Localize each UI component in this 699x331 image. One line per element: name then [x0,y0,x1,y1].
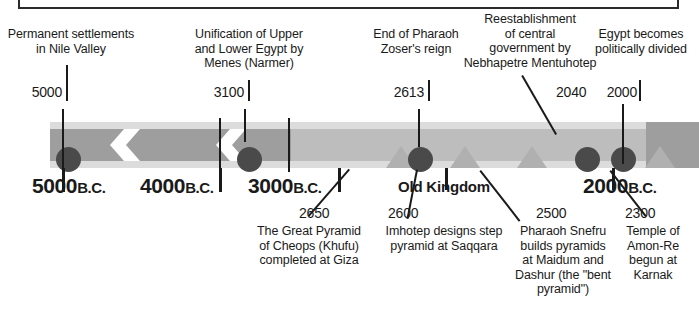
event-year-5000: 5000 [10,85,62,100]
axis-label-5000: 5000B.C. [32,174,106,198]
event-label-3100-line-2: Menes (Narmer) [183,56,315,71]
event-label-2000-line-0: Egypt becomes [583,27,699,42]
pyramid-marker-2500 [517,146,547,168]
timeline-band [50,122,699,168]
leader-line-2613-stem [418,109,420,147]
dot-marker-2613 [408,147,433,172]
event-label-5000: Permanent settlements in Nile Valley [6,27,136,56]
leader-line-3100-stem [244,109,246,142]
event-year-2000: 2000 [585,85,637,100]
event-year-2613: 2613 [372,85,424,100]
axis-rule-3000 [288,118,290,172]
axis-label-5000-era: B.C. [77,179,105,196]
leader-line-5000-label [66,65,68,101]
event-label-2650-line-1: of Cheops (Khufu) [246,239,372,254]
event-label-2500-line-4: pyramid") [508,282,618,297]
event-label-2500: Pharaoh Snefru builds pyramids at Maidum… [508,224,618,297]
event-label-2300: Temple of Amon-Re begun at Karnak [613,224,693,282]
axis-label-3000-year: 3000 [248,174,293,197]
axis-label-4000-year: 4000 [140,174,185,197]
axis-label-2000-year: 2000 [583,174,628,197]
timeline-figure: Permanent settlements in Nile Valley 500… [0,0,699,331]
event-label-2600-line-0: Imhotep designs step [379,224,509,239]
event-label-2040-line-0: Reestablishment [455,12,605,27]
event-year-2650: 2650 [299,206,351,221]
event-label-2500-line-0: Pharaoh Snefru [508,224,618,239]
event-label-2650: The Great Pyramid of Cheops (Khufu) comp… [246,224,372,268]
axis-label-3000: 3000B.C. [248,174,322,198]
leader-line-2000-label [639,80,641,101]
leader-line-3100-label [248,80,250,101]
event-year-2600: 2600 [388,206,440,221]
leader-line-2613-label [428,80,430,101]
dot-marker-2040 [575,147,600,172]
event-label-2300-line-2: begun at [613,253,693,268]
event-year-2500: 2500 [536,206,588,221]
event-label-2300-line-1: Amon-Re [613,239,693,254]
event-label-5000-line-0: Permanent settlements [6,27,136,42]
event-label-2650-line-2: completed at Giza [246,253,372,268]
axis-label-old-kingdom: Old Kingdom [398,178,490,195]
event-label-3100: Unification of Upper and Lower Egypt by … [183,27,315,71]
pyramid-marker-2600 [450,146,480,168]
event-label-2000-line-1: politically divided [583,42,699,57]
axis-label-2000: 2000B.C. [583,174,657,198]
event-year-2300: 2300 [625,206,677,221]
event-label-2000: Egypt becomes politically divided [583,27,699,56]
event-label-2500-line-3: Dashur (the "bent [508,268,618,283]
zigzag-break-1 [110,122,140,168]
event-year-3100: 3100 [192,85,244,100]
axis-label-5000-year: 5000 [32,174,77,197]
page-frame-box [18,0,679,9]
axis-rule-4000 [219,118,221,172]
axis-label-4000-era: B.C. [185,179,213,196]
pyramid-marker-2300 [645,146,675,168]
axis-label-2000-era: B.C. [628,179,656,196]
dot-marker-3100 [237,147,262,172]
event-label-2650-line-0: The Great Pyramid [246,224,372,239]
event-label-5000-line-1: in Nile Valley [6,42,136,57]
event-label-2500-line-1: builds pyramids [508,239,618,254]
event-label-3100-line-1: and Lower Egypt by [183,42,315,57]
event-label-2300-line-0: Temple of [613,224,693,239]
event-label-2500-line-2: at Maidum and [508,253,618,268]
event-label-3100-line-0: Unification of Upper [183,27,315,42]
event-label-2600: Imhotep designs step pyramid at Saqqara [379,224,509,253]
event-label-2300-line-3: Karnak [613,268,693,283]
event-label-2040-line-3: Nebhapetre Mentuhotep [455,56,605,71]
axis-label-3000-era: B.C. [293,179,321,196]
event-label-2600-line-1: pyramid at Saqqara [379,239,509,254]
dot-marker-5000 [56,147,81,172]
axis-label-4000: 4000B.C. [140,174,214,198]
axis-rule-5000 [62,118,64,172]
leader-line-2000-stem [622,104,624,164]
